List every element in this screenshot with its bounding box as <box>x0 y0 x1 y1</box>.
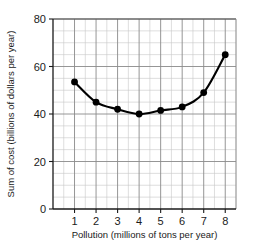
data-point <box>71 79 78 86</box>
data-point <box>179 103 186 110</box>
y-tick-label: 0 <box>40 203 46 215</box>
x-tick-label: 2 <box>93 215 99 227</box>
x-axis-title: Pollution (millions of tons per year) <box>72 229 218 240</box>
x-tick-label: 7 <box>201 215 207 227</box>
y-axis-title: Sum of cost (billions of dollars per yea… <box>5 31 16 198</box>
scatter-plot-svg: 12345678 020406080 Pollution (millions o… <box>0 0 256 249</box>
x-tick-label: 8 <box>222 215 228 227</box>
data-point <box>200 89 207 96</box>
data-point <box>93 99 100 106</box>
data-point <box>222 51 229 58</box>
plot-background <box>0 0 256 249</box>
x-tick-label: 6 <box>179 215 185 227</box>
y-tick-label: 80 <box>34 13 46 25</box>
data-point <box>136 111 143 118</box>
x-tick-label: 3 <box>115 215 121 227</box>
data-point <box>157 107 164 114</box>
y-tick-label: 60 <box>34 61 46 73</box>
x-tick-label: 5 <box>158 215 164 227</box>
chart-figure: 12345678 020406080 Pollution (millions o… <box>0 0 256 249</box>
data-point <box>114 106 121 113</box>
x-tick-label: 1 <box>71 215 77 227</box>
y-tick-label: 40 <box>34 108 46 120</box>
x-tick-label: 4 <box>136 215 142 227</box>
y-tick-label: 20 <box>34 156 46 168</box>
chart-canvas: 12345678 020406080 Pollution (millions o… <box>0 0 256 249</box>
